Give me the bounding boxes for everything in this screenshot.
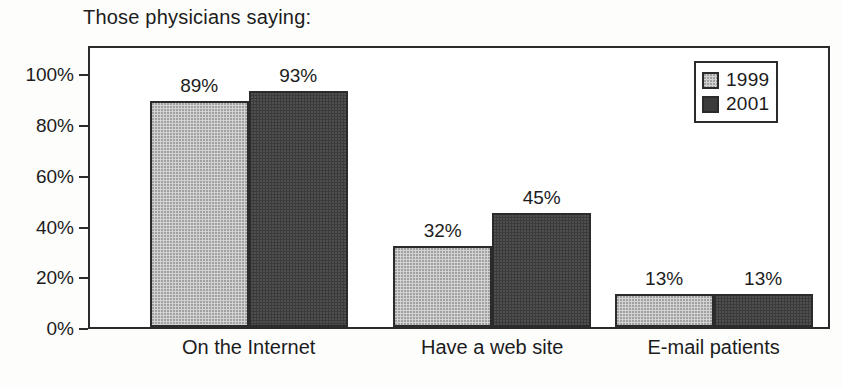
y-axis-tick-label: 60% [36, 166, 79, 188]
y-axis-tick-mark [79, 328, 88, 330]
y-axis-tick-mark [79, 125, 88, 127]
bar-value-label: 93% [279, 65, 317, 87]
y-axis-tick-mark [79, 176, 88, 178]
bar-2001-2 [492, 213, 591, 327]
y-axis-tick-label: 20% [36, 267, 79, 289]
bar-1999-3 [615, 294, 714, 327]
bar-group: 89%93% [150, 48, 348, 327]
y-axis-tick-mark [79, 277, 88, 279]
legend-item-label: 1999 [726, 69, 769, 91]
chart-title: Those physicians saying: [83, 6, 311, 29]
x-axis-label: Have a web site [372, 336, 612, 359]
bar-value-label: 32% [424, 220, 462, 242]
legend-item-2001: 2001 [702, 92, 769, 116]
legend-item-label: 2001 [726, 93, 769, 115]
y-axis-tick-mark [79, 227, 88, 229]
y-axis-tick-label: 80% [36, 115, 79, 137]
chart-legend: 19992001 [694, 61, 778, 123]
light-gray-swatch [702, 72, 719, 89]
bar-group: 32%45% [393, 48, 591, 327]
bar-2001-1 [249, 91, 348, 327]
bar-1999-1 [150, 101, 249, 327]
y-axis-tick-label: 100% [25, 64, 79, 86]
bar-value-label: 45% [523, 187, 561, 209]
bar-2001-3 [714, 294, 813, 327]
y-axis-tick-label: 0% [47, 318, 79, 340]
bar-value-label: 13% [744, 268, 782, 290]
y-axis-tick-label: 40% [36, 217, 79, 239]
x-axis: On the InternetHave a web siteE-mail pat… [90, 336, 828, 370]
bar-value-label: 13% [645, 268, 683, 290]
x-axis-label: E-mail patients [594, 336, 834, 359]
y-axis: 0%20%40%60%80%100% [0, 46, 88, 329]
legend-item-1999: 1999 [702, 68, 769, 92]
dark-gray-swatch [702, 96, 719, 113]
x-axis-label: On the Internet [129, 336, 369, 359]
bar-chart: Those physicians saying: 0%20%40%60%80%1… [0, 0, 843, 388]
bar-value-label: 89% [180, 75, 218, 97]
y-axis-tick-mark [79, 74, 88, 76]
bar-1999-2 [393, 246, 492, 327]
